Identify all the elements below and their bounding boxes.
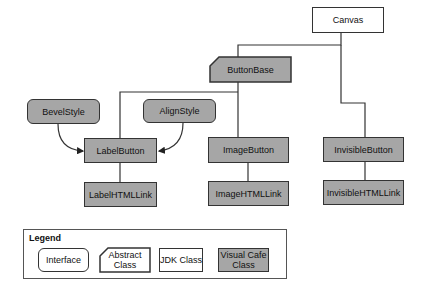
legend-abstract-class: Abstract Class — [100, 248, 150, 272]
node-label-html-link: LabelHTMLLink — [84, 182, 157, 207]
legend-jdk-class: JDK Class — [159, 248, 203, 272]
node-invisible-html-link: InvisibleHTMLLink — [323, 180, 404, 205]
node-image-html-link: ImageHTMLLink — [208, 181, 289, 206]
legend-title: Legend — [29, 233, 61, 243]
node-label-button: LabelButton — [84, 138, 157, 163]
class-hierarchy-diagram: Canvas ButtonBase BevelStyle AlignStyle … — [0, 0, 423, 295]
node-button-base: ButtonBase — [210, 57, 291, 82]
legend-interface: Interface — [38, 248, 89, 272]
node-invisible-button: InvisibleButton — [323, 137, 404, 162]
node-bevel-style: BevelStyle — [27, 99, 100, 124]
node-canvas: Canvas — [312, 7, 384, 33]
node-image-button: ImageButton — [208, 137, 289, 163]
legend-visual-cafe-class: Visual Cafe Class — [218, 248, 269, 272]
node-align-style: AlignStyle — [143, 99, 216, 123]
